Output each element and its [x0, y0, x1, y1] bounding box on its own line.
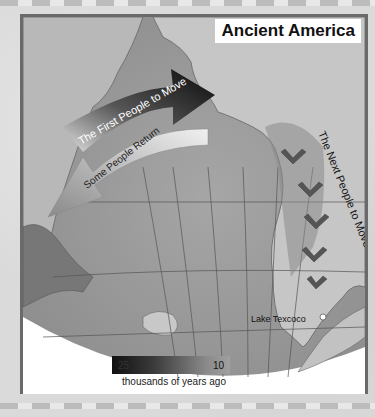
legend-start-value: 25	[118, 360, 129, 371]
map-frame: The First People to Move Some People Ret…	[20, 14, 368, 394]
map-canvas: The First People to Move Some People Ret…	[23, 17, 365, 394]
bottom-dashed-border	[0, 403, 375, 409]
lake-texcoco-marker	[320, 314, 326, 320]
top-dashed-border	[0, 0, 375, 6]
map-title: Ancient America	[215, 19, 361, 43]
legend-end-value: 10	[213, 360, 224, 371]
timeline-legend-bar: 25 10	[112, 356, 230, 374]
lake-texcoco-label: Lake Texcoco	[251, 314, 306, 324]
legend-caption: thousands of years ago	[104, 376, 244, 387]
